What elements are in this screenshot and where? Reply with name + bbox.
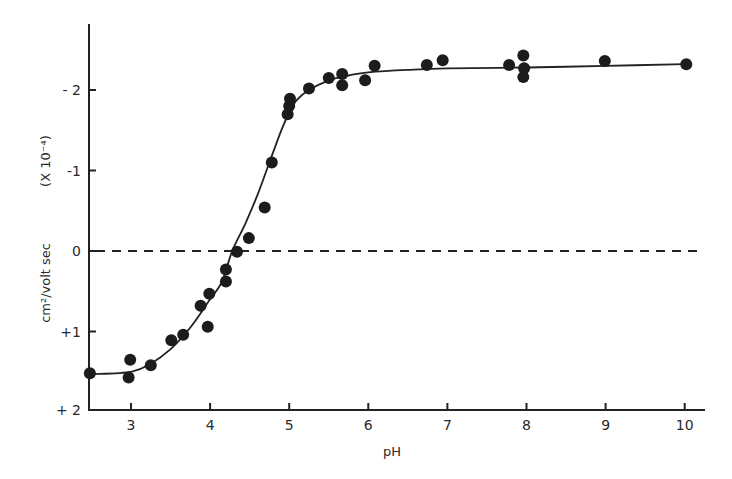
data-point (165, 334, 177, 346)
y-tick-label: + 2 (56, 402, 81, 418)
x-tick-label: 5 (285, 417, 294, 433)
data-point (359, 74, 371, 86)
y-axis-title: cm²/volt sec (X 10⁻⁴) (38, 135, 53, 323)
data-point (123, 371, 135, 383)
data-point (421, 59, 433, 71)
data-point (517, 49, 529, 61)
data-point (145, 359, 157, 371)
data-point (336, 79, 348, 91)
y-axis-units: cm²/volt sec (38, 243, 53, 323)
axes (88, 24, 705, 411)
data-point (323, 72, 335, 84)
data-point (680, 58, 692, 70)
data-point (517, 71, 529, 83)
y-tick-label: 0 (72, 243, 81, 259)
mobility-vs-ph-chart: 345678910 - 2-10+1+ 2 pH cm²/volt sec (X… (0, 0, 732, 479)
data-point (369, 60, 381, 72)
data-point (243, 232, 255, 244)
data-point (220, 264, 232, 276)
x-tick-label: 8 (522, 417, 531, 433)
data-point (336, 68, 348, 80)
y-axis-scale: (X 10⁻⁴) (38, 135, 53, 187)
data-points (84, 49, 692, 383)
data-point (303, 82, 315, 94)
data-point (599, 55, 611, 67)
y-tick-label: -1 (67, 163, 81, 179)
data-point (84, 367, 96, 379)
data-point (195, 300, 207, 312)
fitted-curve (92, 64, 685, 374)
x-tick-label: 9 (601, 417, 610, 433)
x-tick-label: 6 (364, 417, 373, 433)
data-point (266, 156, 278, 168)
x-tick-label: 10 (676, 417, 694, 433)
x-tick-label: 7 (443, 417, 452, 433)
data-point (259, 202, 271, 214)
x-ticks: 345678910 (127, 403, 694, 433)
data-point (284, 93, 296, 105)
x-tick-label: 4 (206, 417, 215, 433)
data-point (124, 354, 136, 366)
data-point (220, 276, 232, 288)
data-point (503, 59, 515, 71)
x-axis-title: pH (383, 444, 401, 459)
y-tick-label: - 2 (63, 82, 81, 98)
data-point (437, 54, 449, 66)
data-point (203, 288, 215, 300)
data-point (177, 329, 189, 341)
y-tick-label: +1 (60, 324, 81, 340)
data-point (231, 246, 243, 258)
data-point (202, 321, 214, 333)
x-tick-label: 3 (127, 417, 136, 433)
